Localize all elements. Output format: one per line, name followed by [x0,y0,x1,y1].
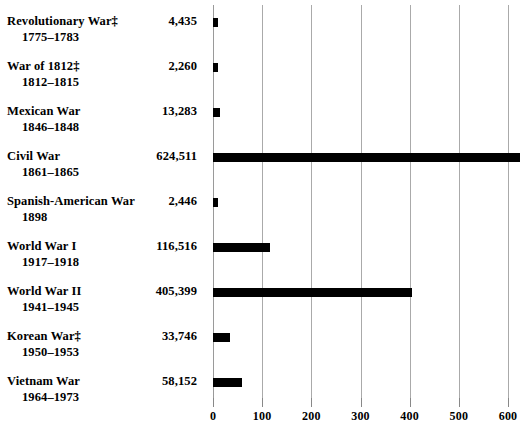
gridline [410,5,411,400]
x-axis-tick-label: 300 [341,409,381,424]
x-axis-tick [311,398,312,407]
row-label-line: World War I116,516 [0,239,197,254]
row-label-line: World War II405,399 [0,284,197,299]
x-axis-tick-label: 400 [390,409,430,424]
bar [213,243,270,252]
x-axis-tick [410,398,411,407]
war-years: 1917–1918 [22,255,79,270]
war-years: 1941–1945 [22,300,79,315]
row-label-line: War of 1812‡2,260 [0,59,197,74]
war-casualty-value: 13,283 [162,104,197,119]
war-name: World War I [7,239,76,254]
war-casualty-value: 33,746 [162,329,197,344]
war-casualties-bar-chart: Revolutionary War‡4,4351775–1783War of 1… [0,0,525,430]
war-years: 1964–1973 [22,390,79,405]
war-years: 1812–1815 [22,75,79,90]
row-label: Mexican War13,2831846–1848 [0,104,197,119]
row-label-line: Mexican War13,283 [0,104,197,119]
x-axis-tick-label: 0 [193,409,233,424]
bar [213,153,520,162]
bar [213,378,242,387]
war-name: World War II [7,284,81,299]
bar [213,333,230,342]
war-casualty-value: 116,516 [156,239,197,254]
row-label: World War II405,3991941–1945 [0,284,197,299]
row-label-line: Spanish-American War2,446 [0,194,197,209]
war-years: 1775–1783 [22,30,79,45]
war-casualty-value: 4,435 [168,14,197,29]
gridline [361,5,362,400]
bar [213,18,218,27]
war-name: Spanish-American War [7,194,135,209]
row-label-line: Korean War‡33,746 [0,329,197,344]
war-years: 1950–1953 [22,345,79,360]
x-axis-tick-label: 200 [291,409,331,424]
row-label-line: Revolutionary War‡4,435 [0,14,197,29]
war-years: 1861–1865 [22,165,79,180]
plot-area: 0100200300400500600 [213,0,525,430]
war-casualty-value: 405,399 [156,284,197,299]
bar [213,288,412,297]
bar [213,63,218,72]
row-label: Korean War‡33,7461950–1953 [0,329,197,344]
war-name: Revolutionary War‡ [7,14,118,29]
x-axis-tick-label: 100 [242,409,282,424]
gridline [262,5,263,400]
x-axis-tick [213,398,214,407]
row-label-line: Civil War624,511 [0,149,197,164]
war-years: 1898 [22,210,47,225]
row-label: World War I116,5161917–1918 [0,239,197,254]
row-label: Spanish-American War2,4461898 [0,194,197,209]
category-label-column: Revolutionary War‡4,4351775–1783War of 1… [0,0,200,400]
war-name: Korean War‡ [7,329,81,344]
x-axis-tick [361,398,362,407]
x-axis-tick [508,398,509,407]
row-label: War of 1812‡2,2601812–1815 [0,59,197,74]
gridline [508,5,509,400]
war-casualty-value: 624,511 [156,149,197,164]
war-name: Mexican War [7,104,80,119]
row-label-line: Vietnam War58,152 [0,374,197,389]
x-axis-tick [262,398,263,407]
x-axis-tick-label: 600 [488,409,525,424]
war-years: 1846–1848 [22,120,79,135]
war-name: Civil War [7,149,60,164]
row-label: Civil War624,5111861–1865 [0,149,197,164]
bar [213,198,218,207]
row-label: Revolutionary War‡4,4351775–1783 [0,14,197,29]
gridline [459,5,460,400]
war-name: Vietnam War [7,374,80,389]
war-name: War of 1812‡ [7,59,80,74]
war-casualty-value: 2,446 [168,194,197,209]
x-axis-tick [459,398,460,407]
row-label: Vietnam War58,1521964–1973 [0,374,197,389]
bar [213,108,220,117]
x-axis-tick-label: 500 [439,409,479,424]
gridline [311,5,312,400]
war-casualty-value: 58,152 [162,374,197,389]
war-casualty-value: 2,260 [168,59,197,74]
